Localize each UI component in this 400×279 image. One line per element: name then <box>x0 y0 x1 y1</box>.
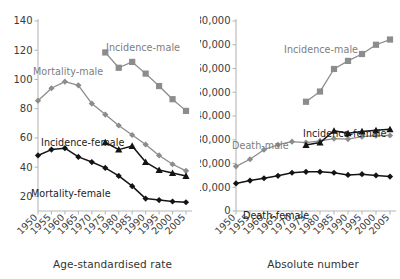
svg-text:40,000: 40,000 <box>200 110 231 121</box>
svg-text:20,000: 20,000 <box>200 158 231 169</box>
svg-text:70,000: 70,000 <box>200 39 231 50</box>
series-label-death-male: Death-male <box>232 140 289 151</box>
series-incidence-male <box>102 49 189 114</box>
svg-text:60: 60 <box>20 132 33 143</box>
series-label-incidence-male-right: Incidence-male <box>284 44 358 55</box>
series-label-death-female: Death-female <box>243 210 309 221</box>
svg-text:80: 80 <box>20 103 33 114</box>
svg-text:40: 40 <box>20 162 33 173</box>
svg-text:120: 120 <box>13 45 32 56</box>
series-label-incidence-female: Incidence-female <box>41 137 124 148</box>
svg-text:50,000: 50,000 <box>200 87 231 98</box>
series-label-incidence-female-right: Incidence-female <box>303 128 386 139</box>
right-chart-svg: 010,00020,00030,00040,00050,00060,00070,… <box>200 0 400 279</box>
series-label-mortality-male: Mortality-male <box>33 66 103 77</box>
x-axis-label-right: Absolute number <box>228 258 398 270</box>
svg-text:10,000: 10,000 <box>200 182 231 193</box>
x-axis-label-left: Age-standardised rate <box>30 258 195 270</box>
series-label-mortality-female: Mortality-female <box>31 188 111 199</box>
svg-text:80,000: 80,000 <box>200 15 231 26</box>
svg-text:100: 100 <box>13 74 32 85</box>
chart-panel-left: 2040608010012014019501955196019651970197… <box>0 0 200 279</box>
svg-text:30,000: 30,000 <box>200 134 231 145</box>
figure-container: 2040608010012014019501955196019651970197… <box>0 0 400 279</box>
chart-panel-right: 010,00020,00030,00040,00050,00060,00070,… <box>200 0 400 279</box>
series-label-incidence-male: Incidence-male <box>106 42 180 53</box>
svg-text:140: 140 <box>13 15 32 26</box>
series-death-female <box>233 169 393 187</box>
svg-text:60,000: 60,000 <box>200 63 231 74</box>
